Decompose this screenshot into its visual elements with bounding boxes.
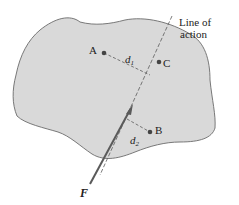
line-of-action-label-2: action — [180, 28, 207, 40]
label-force: F — [79, 186, 88, 200]
label-a: A — [89, 44, 97, 56]
point-a — [102, 51, 107, 56]
diagram-canvas: Line of action A C B d1 d2 F — [0, 0, 239, 205]
point-b — [148, 130, 153, 135]
label-b: B — [155, 124, 162, 136]
line-of-action-label-1: Line of — [179, 16, 211, 28]
label-c: C — [163, 57, 170, 69]
point-c — [157, 60, 162, 65]
